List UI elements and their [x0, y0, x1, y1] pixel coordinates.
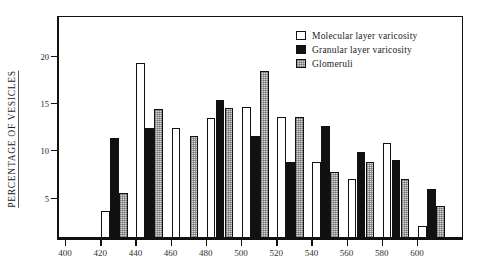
bar-420-white [101, 211, 110, 238]
y-axis-title-wrapper: PERCENTAGE OF VESICLES [2, 44, 24, 234]
bar-group-440 [136, 16, 163, 238]
bar-440-stippled [154, 109, 163, 238]
x-tick-label-420: 420 [93, 248, 107, 258]
bar-600-black [427, 189, 436, 238]
bar-460-stippled [190, 136, 199, 238]
x-tick-480 [206, 240, 207, 246]
x-tick-label-480: 480 [199, 248, 213, 258]
legend-label-glomeruli: Glomeruli [312, 59, 353, 69]
x-tick-460 [171, 240, 172, 246]
legend-label-molecular-layer-varicosity: Molecular layer varicosity [312, 31, 417, 41]
y-tick-label-15: 15 [41, 99, 50, 109]
bar-520-white [277, 117, 286, 238]
legend-swatch-white-icon [296, 31, 306, 40]
legend-item-glomeruli: Glomeruli [296, 57, 461, 70]
x-tick-label-560: 560 [340, 248, 354, 258]
bar-460-white [172, 128, 181, 238]
bar-480-black [216, 100, 225, 238]
bar-420-stippled [119, 193, 128, 239]
y-tick-label-10: 10 [41, 146, 50, 156]
y-tick-20: 20 [51, 56, 58, 57]
x-tick-600 [417, 240, 418, 246]
x-tick-400 [65, 240, 66, 246]
x-tick-560 [347, 240, 348, 246]
bar-560-white [348, 179, 357, 238]
bar-540-stippled [330, 172, 339, 238]
bar-group-500 [242, 16, 269, 238]
bar-group-400 [66, 16, 93, 238]
bar-group-460 [172, 16, 199, 238]
legend-item-granular-layer-varicosity: Granular layer varicosity [296, 43, 461, 56]
bar-group-420 [101, 16, 128, 238]
y-tick-10: 10 [51, 150, 58, 151]
legend-swatch-black-icon [296, 45, 306, 54]
bar-580-white [383, 143, 392, 238]
x-tick-label-600: 600 [410, 248, 424, 258]
bar-580-black [392, 160, 401, 238]
bar-480-white [207, 118, 216, 238]
x-tick-420 [100, 240, 101, 246]
y-tick-5: 5 [51, 198, 58, 199]
bar-440-black [145, 128, 154, 238]
bar-560-black [357, 152, 366, 238]
bar-540-black [321, 126, 330, 238]
bar-group-480 [207, 16, 234, 238]
bar-600-white [418, 226, 427, 238]
y-axis-title: PERCENTAGE OF VESICLES [7, 70, 19, 207]
legend-swatch-stippled-icon [296, 59, 306, 68]
bar-520-stippled [295, 117, 304, 238]
x-tick-label-580: 580 [375, 248, 389, 258]
bar-600-stippled [436, 206, 445, 238]
bar-420-black [110, 138, 119, 238]
bar-520-black [286, 162, 295, 238]
x-tick-540 [311, 240, 312, 246]
bar-440-white [136, 63, 145, 238]
x-tick-label-520: 520 [269, 248, 283, 258]
y-tick-label-5: 5 [45, 194, 49, 204]
bar-500-black [251, 136, 260, 238]
bar-580-stippled [401, 179, 410, 238]
x-tick-label-400: 400 [58, 248, 72, 258]
x-tick-580 [382, 240, 383, 246]
bar-540-white [312, 162, 321, 238]
y-tick-15: 15 [51, 103, 58, 104]
x-tick-label-460: 460 [164, 248, 178, 258]
bar-500-stippled [260, 71, 269, 238]
x-axis-line [57, 238, 463, 240]
bar-480-stippled [225, 108, 234, 238]
x-tick-520 [276, 240, 277, 246]
y-tick-label-20: 20 [41, 52, 50, 62]
x-tick-500 [241, 240, 242, 246]
legend-label-granular-layer-varicosity: Granular layer varicosity [312, 45, 412, 55]
x-tick-label-540: 540 [305, 248, 319, 258]
legend-item-molecular-layer-varicosity: Molecular layer varicosity [296, 29, 461, 42]
bar-500-white [242, 107, 251, 238]
x-tick-440 [135, 240, 136, 246]
x-tick-label-440: 440 [129, 248, 143, 258]
bar-chart-figure: PERCENTAGE OF VESICLES 20 15 10 5 400420… [0, 0, 483, 270]
x-tick-label-500: 500 [234, 248, 248, 258]
bar-560-stippled [366, 162, 375, 238]
chart-legend: Molecular layer varicosity Granular laye… [296, 29, 461, 71]
